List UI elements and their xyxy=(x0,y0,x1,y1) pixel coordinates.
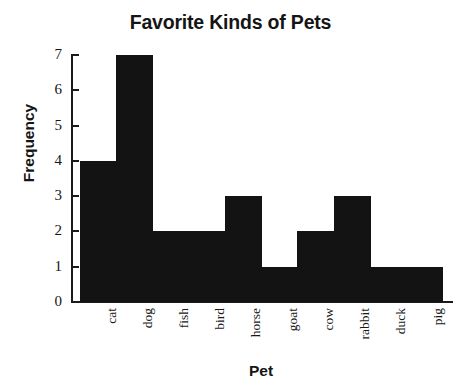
x-tick-label-wrap: rabbit xyxy=(358,0,359,1)
bar-fish xyxy=(152,231,189,302)
x-axis-label: Pet xyxy=(206,362,316,380)
x-tick-label-wrap: horse xyxy=(249,0,250,1)
x-tick-label-wrap: pig xyxy=(431,0,432,1)
x-tick-label-rabbit: rabbit xyxy=(358,308,372,340)
x-tick-label-pig: pig xyxy=(431,308,445,325)
y-tick-label: 3 xyxy=(38,188,62,203)
y-axis-label: Frequency xyxy=(20,88,38,198)
x-tick-label-wrap: fish xyxy=(177,0,178,1)
y-tick-label: 7 xyxy=(38,47,62,62)
x-tick-label-wrap: duck xyxy=(394,0,395,1)
bar-duck xyxy=(370,267,407,302)
x-tick-label-dog: dog xyxy=(141,308,155,328)
x-tick-label-wrap: goat xyxy=(286,0,287,1)
bar-goat xyxy=(261,267,298,302)
bar-cat xyxy=(80,161,117,302)
plot-area xyxy=(71,55,453,302)
bar-rabbit xyxy=(334,196,371,302)
x-tick-label-wrap: cow xyxy=(322,0,323,1)
x-tick-label-wrap: cat xyxy=(105,0,106,1)
y-tick-label: 2 xyxy=(38,223,62,238)
y-tick-label: 5 xyxy=(38,118,62,133)
x-tick-label-goat: goat xyxy=(286,308,300,331)
y-tick-label: 0 xyxy=(38,294,62,309)
chart-page: Favorite Kinds of Pets Frequency Pet 012… xyxy=(0,0,461,390)
x-tick-label-cow: cow xyxy=(322,308,336,331)
y-tick-label: 1 xyxy=(38,259,62,274)
page-title: Favorite Kinds of Pets xyxy=(0,11,461,34)
x-tick-label-duck: duck xyxy=(394,308,408,334)
bar-pig xyxy=(406,267,443,302)
x-tick-label-wrap: bird xyxy=(213,0,214,1)
y-tick-label: 4 xyxy=(38,153,62,168)
x-tick-label-bird: bird xyxy=(213,308,227,330)
bar-cow xyxy=(297,231,334,302)
x-tick-label-fish: fish xyxy=(177,308,191,328)
x-tick-label-wrap: dog xyxy=(141,0,142,1)
bar-horse xyxy=(225,196,262,302)
x-tick-label-cat: cat xyxy=(105,308,119,324)
bar-bird xyxy=(189,231,226,302)
x-tick-label-horse: horse xyxy=(249,308,263,337)
bar-dog xyxy=(116,55,153,302)
y-tick-label: 6 xyxy=(38,82,62,97)
